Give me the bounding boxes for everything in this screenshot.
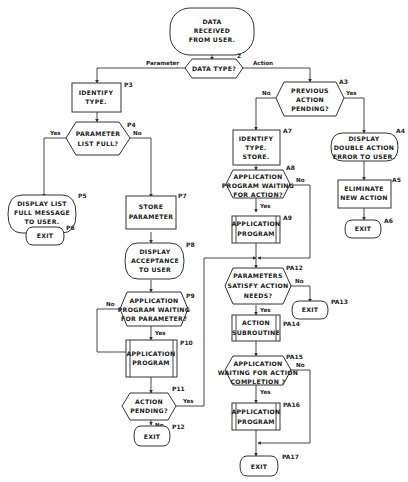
svg-text:EXIT: EXIT [251,463,268,470]
node-p3: IDENTIFY TYPE. P3 [72,81,133,112]
edge-label-a3-yes: Yes [345,90,357,96]
svg-text:P12: P12 [172,423,185,430]
svg-text:2: 2 [237,52,241,59]
svg-text:PARAMETER: PARAMETER [76,130,121,137]
svg-text:PA12: PA12 [286,264,303,271]
svg-text:EXIT: EXIT [302,306,319,313]
node-p4: PARAMETER LIST FULL? P4 [66,121,136,155]
svg-text:P6: P6 [66,224,75,231]
svg-text:P4: P4 [127,121,136,128]
edge-label-pa12-no: No [295,278,304,284]
svg-text:EXIT: EXIT [355,225,372,232]
svg-text:P3: P3 [124,81,133,88]
node-p6-exit: EXIT P6 [26,224,75,245]
svg-text:FULL MESSAGE: FULL MESSAGE [14,209,70,216]
svg-text:ACTION: ACTION [135,398,163,405]
svg-text:P10: P10 [180,339,193,346]
node-pa16: APPLICATION PROGRAM PA16 [231,401,299,430]
svg-text:DATA: DATA [202,18,221,25]
svg-text:PARAMETER: PARAMETER [129,213,174,220]
node-pa14: ACTION SUBROUTINE PA14 [232,315,300,341]
svg-text:P8: P8 [186,241,195,248]
svg-text:EXIT: EXIT [37,232,54,239]
node-a5: ELIMINATE NEW ACTION A5 [338,176,401,208]
svg-text:P9: P9 [186,292,195,299]
svg-text:ELIMINATE: ELIMINATE [344,185,384,192]
svg-text:APPLICATION: APPLICATION [233,360,282,367]
node-data-type-decision: DATA TYPE? 2 [185,52,243,78]
svg-text:PROGRAM: PROGRAM [237,418,274,425]
node-pa13-exit: EXIT PA13 [292,298,348,319]
svg-text:P7: P7 [178,192,187,199]
svg-text:P5: P5 [78,192,87,199]
node-a9: APPLICATION PROGRAM A9 [231,214,291,243]
node-start: DATA RECEIVED FROM USER. [170,8,254,55]
svg-text:A3: A3 [339,78,348,85]
svg-text:APPLICATION: APPLICATION [233,173,282,180]
flowchart: Parameter Action Yes No No Yes Yes No No… [0,0,408,482]
edge-label-p4-no: No [133,130,142,136]
svg-text:A8: A8 [286,164,295,171]
svg-text:A6: A6 [384,217,393,224]
svg-text:NEEDS?: NEEDS? [244,292,273,299]
svg-text:DISPLAY: DISPLAY [348,135,379,142]
edge-label-action: Action [253,60,273,66]
svg-text:APPLICATION: APPLICATION [231,220,280,227]
svg-text:TYPE.: TYPE. [245,144,266,151]
node-a4: DISPLAY DOUBLE ACTION ERROR TO USER. A4 [331,127,405,161]
svg-text:PA13: PA13 [331,298,348,305]
edge-label-p9-no: No [106,301,115,307]
node-a8: APPLICATION PROGRAM WAITING FOR ACTION? … [222,164,295,198]
svg-text:A7: A7 [283,127,292,134]
svg-text:COMPLETION ?: COMPLETION ? [231,378,286,385]
svg-text:NEW ACTION: NEW ACTION [340,194,388,201]
edge-label-pa15-yes: Yes [259,389,271,395]
svg-text:A4: A4 [396,127,405,134]
node-a6-exit: EXIT A6 [345,217,393,238]
svg-text:SATISFY ACTION: SATISFY ACTION [227,282,288,289]
svg-text:PA17: PA17 [282,453,299,460]
svg-text:IDENTIFY: IDENTIFY [79,89,114,96]
svg-text:PROGRAM WAITING: PROGRAM WAITING [222,182,294,189]
node-pa17-exit: EXIT PA17 [240,453,299,476]
svg-text:PREVIOUS: PREVIOUS [291,87,329,94]
node-p11: ACTION PENDING? P11 [122,385,185,420]
svg-text:DOUBLE ACTION: DOUBLE ACTION [334,144,395,151]
svg-text:PA16: PA16 [283,401,300,408]
svg-text:STORE: STORE [139,203,163,210]
svg-text:PENDING?: PENDING? [291,105,329,112]
svg-text:LIST FULL?: LIST FULL? [78,140,119,147]
svg-text:DISPLAY LIST: DISPLAY LIST [17,200,67,207]
svg-text:PROGRAM: PROGRAM [237,230,274,237]
edge-label-p11-yes: Yes [182,398,194,404]
svg-text:STORE.: STORE. [242,153,269,160]
edge-label-parameter: Parameter [146,60,179,66]
svg-text:ACCEPTANCE: ACCEPTANCE [131,257,179,264]
svg-text:TO USER.: TO USER. [25,218,60,225]
edge-label-pa12-yes: Yes [259,307,271,313]
svg-text:APPLICATION: APPLICATION [231,408,280,415]
svg-text:APPLICATION: APPLICATION [126,350,175,357]
edge-label-p9-yes: Yes [154,330,166,336]
svg-text:ACTION: ACTION [242,319,270,326]
svg-text:FOR PARAMETER?: FOR PARAMETER? [121,315,187,322]
svg-text:PARAMETERS: PARAMETERS [233,272,282,279]
node-pa15: APPLICATION WAITING FOR ACTION COMPLETIO… [218,353,303,385]
node-p12-exit: EXIT P12 [134,423,185,446]
svg-text:ERROR TO USER.: ERROR TO USER. [333,153,396,160]
node-p9: APPLICATION PROGRAM WAITING FOR PARAMETE… [118,292,195,326]
svg-text:A5: A5 [392,176,401,183]
edge-label-a8-yes: Yes [259,203,271,209]
svg-text:WAITING FOR ACTION: WAITING FOR ACTION [218,369,299,376]
node-pa12: PARAMETERS SATISFY ACTION NEEDS? PA12 [225,264,303,304]
svg-text:RECEIVED: RECEIVED [194,27,231,34]
svg-text:PENDING?: PENDING? [130,407,168,414]
edge-label-a3-no: No [262,90,271,96]
edge-label-a8-no: No [296,177,305,183]
svg-text:PA15: PA15 [286,353,303,360]
svg-text:FROM USER.: FROM USER. [189,36,236,43]
svg-text:FOR ACTION?: FOR ACTION? [233,191,283,198]
svg-text:PROGRAM WAITING: PROGRAM WAITING [118,306,190,313]
node-p10: APPLICATION PROGRAM P10 [126,339,193,377]
svg-text:TYPE.: TYPE. [85,98,106,105]
